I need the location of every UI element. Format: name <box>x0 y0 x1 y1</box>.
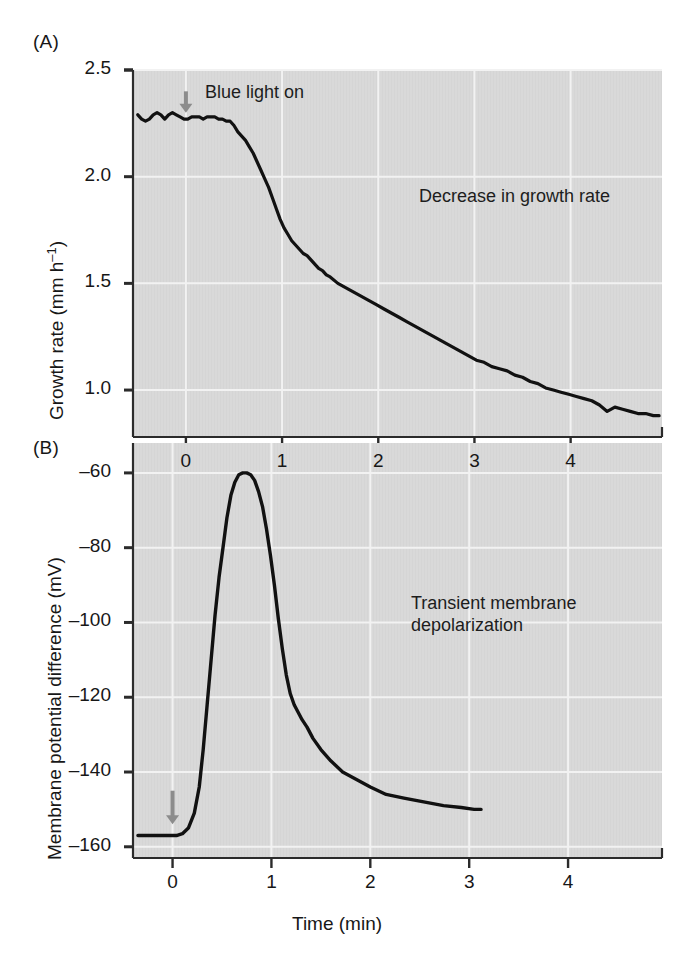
panel-b-x-tick-label: 1 <box>256 871 286 893</box>
texture-stripe <box>208 443 209 858</box>
texture-stripe <box>484 443 485 858</box>
texture-stripe <box>310 443 311 858</box>
texture-stripe <box>514 70 515 437</box>
texture-stripe <box>307 70 308 437</box>
texture-stripe <box>355 70 356 437</box>
texture-stripe <box>505 443 506 858</box>
texture-stripe <box>616 443 617 858</box>
texture-stripe <box>553 70 554 437</box>
texture-stripe <box>607 443 608 858</box>
texture-stripe <box>394 70 395 437</box>
texture-stripe <box>340 70 341 437</box>
texture-stripe <box>229 70 230 437</box>
figure-root: (A) (B) Growth rate (mm h–1) Membrane po… <box>0 0 692 964</box>
texture-stripe <box>493 70 494 437</box>
texture-stripe <box>163 70 164 437</box>
texture-stripe <box>559 443 560 858</box>
texture-stripe <box>238 443 239 858</box>
panel-b-y-tick-label: –120 <box>49 684 111 706</box>
texture-stripe <box>448 443 449 858</box>
texture-stripe <box>361 70 362 437</box>
texture-stripe <box>205 70 206 437</box>
texture-stripe <box>616 70 617 437</box>
texture-stripe <box>388 70 389 437</box>
texture-stripe <box>550 70 551 437</box>
texture-stripe <box>337 70 338 437</box>
texture-stripe <box>301 443 302 858</box>
texture-stripe <box>466 70 467 437</box>
texture-stripe <box>607 70 608 437</box>
texture-stripe <box>352 70 353 437</box>
texture-stripe <box>364 443 365 858</box>
x-axis-title: Time (min) <box>292 913 382 935</box>
texture-stripe <box>202 443 203 858</box>
texture-stripe <box>259 70 260 437</box>
texture-stripe <box>205 443 206 858</box>
texture-stripe <box>544 443 545 858</box>
texture-stripe <box>313 443 314 858</box>
texture-stripe <box>280 443 281 858</box>
texture-stripe <box>322 443 323 858</box>
texture-stripe <box>592 70 593 437</box>
texture-stripe <box>451 70 452 437</box>
texture-stripe <box>595 443 596 858</box>
texture-stripe <box>649 443 650 858</box>
texture-stripe <box>250 70 251 437</box>
texture-stripe <box>169 443 170 858</box>
texture-stripe <box>634 70 635 437</box>
texture-stripe <box>286 443 287 858</box>
texture-stripe <box>472 70 473 437</box>
texture-stripe <box>310 70 311 437</box>
texture-stripe <box>190 70 191 437</box>
texture-stripe <box>334 443 335 858</box>
texture-stripe <box>634 443 635 858</box>
texture-stripe <box>640 443 641 858</box>
texture-stripe <box>508 70 509 437</box>
panel-b-x-tick-label: 4 <box>553 871 583 893</box>
texture-stripe <box>325 70 326 437</box>
texture-stripe <box>217 443 218 858</box>
texture-stripe <box>268 443 269 858</box>
texture-stripe <box>208 70 209 437</box>
texture-stripe <box>646 443 647 858</box>
texture-stripe <box>148 443 149 858</box>
texture-stripe <box>544 70 545 437</box>
texture-stripe <box>472 443 473 858</box>
texture-stripe <box>265 70 266 437</box>
texture-stripe <box>253 70 254 437</box>
texture-stripe <box>292 443 293 858</box>
texture-stripe <box>328 70 329 437</box>
panel-b-label: (B) <box>33 437 59 459</box>
panel-b-y-tick-label: –140 <box>49 759 111 781</box>
texture-stripe <box>145 443 146 858</box>
texture-stripe <box>232 443 233 858</box>
texture-stripe <box>346 70 347 437</box>
texture-stripe <box>277 70 278 437</box>
texture-stripe <box>346 443 347 858</box>
texture-stripe <box>274 443 275 858</box>
texture-stripe <box>223 70 224 437</box>
texture-stripe <box>520 70 521 437</box>
texture-stripe <box>490 443 491 858</box>
texture-stripe <box>379 443 380 858</box>
texture-stripe <box>436 70 437 437</box>
texture-stripe <box>532 443 533 858</box>
texture-stripe <box>328 443 329 858</box>
texture-stripe <box>184 70 185 437</box>
texture-stripe <box>214 70 215 437</box>
texture-stripe <box>445 70 446 437</box>
texture-stripe <box>361 443 362 858</box>
texture-stripe <box>187 443 188 858</box>
texture-stripe <box>334 70 335 437</box>
panel-a-y-tick-label: 1.0 <box>49 377 111 399</box>
texture-stripe <box>187 70 188 437</box>
texture-stripe <box>175 70 176 437</box>
texture-stripe <box>289 70 290 437</box>
texture-stripe <box>193 70 194 437</box>
texture-stripe <box>331 70 332 437</box>
texture-stripe <box>385 70 386 437</box>
texture-stripe <box>367 70 368 437</box>
texture-stripe <box>484 70 485 437</box>
texture-stripe <box>211 70 212 437</box>
texture-stripe <box>661 443 662 858</box>
